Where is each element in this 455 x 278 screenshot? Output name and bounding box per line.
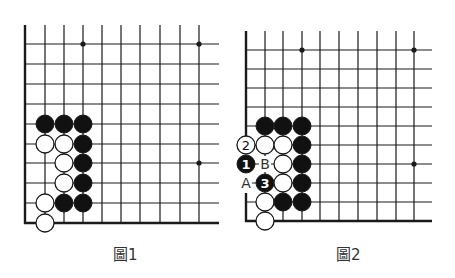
star-point (196, 160, 201, 165)
white-stone (256, 136, 274, 154)
star-point (299, 47, 304, 52)
black-stone (293, 174, 311, 192)
black-stone (55, 115, 73, 133)
white-stone (36, 194, 54, 212)
go-diagrams: BA213 (0, 0, 455, 278)
black-stone (293, 136, 311, 154)
point-label-b: B (260, 156, 270, 172)
white-stone (274, 155, 292, 173)
black-stone (74, 194, 92, 212)
star-point (80, 41, 85, 46)
black-stone (293, 193, 311, 211)
go-board-figure-1 (24, 25, 219, 232)
white-stone (55, 174, 73, 192)
figure-2-caption: 圖2 (336, 243, 361, 264)
black-stone (293, 155, 311, 173)
black-stone (274, 117, 292, 135)
figure-1-caption: 圖1 (113, 243, 138, 264)
white-stone (36, 135, 54, 153)
move-number-2: 2 (242, 138, 250, 153)
white-stone (256, 212, 274, 230)
white-stone (55, 154, 73, 172)
star-point (411, 161, 416, 166)
black-stone (36, 115, 54, 133)
black-stone (293, 117, 311, 135)
black-stone (274, 193, 292, 211)
white-stone (274, 174, 292, 192)
move-number-3: 3 (260, 176, 269, 191)
black-stone (74, 154, 92, 172)
black-stone (74, 135, 92, 153)
white-stone (256, 193, 274, 211)
white-stone (55, 135, 73, 153)
black-stone (74, 115, 92, 133)
white-stone (36, 214, 54, 232)
go-board-figure-2: BA213 (237, 31, 432, 230)
black-stone (74, 174, 92, 192)
black-stone (256, 117, 274, 135)
star-point (411, 47, 416, 52)
move-number-1: 1 (241, 157, 250, 172)
white-stone (274, 136, 292, 154)
black-stone (55, 194, 73, 212)
star-point (196, 41, 201, 46)
point-label-a: A (241, 175, 251, 191)
